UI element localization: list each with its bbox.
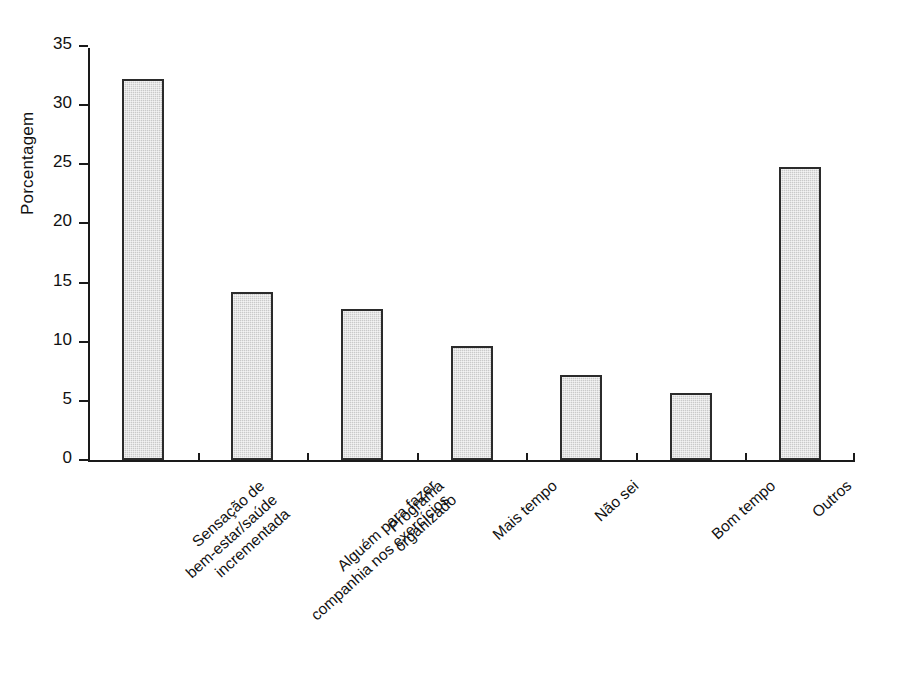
y-tick-label: 30	[53, 93, 72, 113]
y-tick: 20	[79, 222, 88, 224]
x-tick	[853, 453, 855, 462]
y-tick-label: 0	[63, 448, 72, 468]
y-tick: 15	[79, 282, 88, 284]
y-tick: 5	[79, 400, 88, 402]
bar	[451, 346, 493, 460]
x-axis-label-line: Outros	[808, 476, 855, 521]
x-axis-label: Mais tempo	[488, 476, 560, 544]
x-axis-label: Outros	[808, 476, 855, 521]
x-tick	[307, 453, 309, 462]
x-axis-label: Sensação debem-estar/saúdeincrementada	[169, 476, 294, 596]
y-tick-label: 5	[63, 389, 72, 409]
y-axis-line	[88, 48, 90, 462]
y-tick-label: 25	[53, 152, 72, 172]
x-tick	[417, 453, 419, 462]
y-tick-label: 20	[53, 211, 72, 231]
bar	[560, 375, 602, 460]
x-axis-label: Bom tempo	[707, 476, 779, 543]
x-tick	[526, 453, 528, 462]
bar-chart: Porcentagem 05101520253035 Sensação debe…	[0, 0, 898, 683]
bar	[341, 309, 383, 460]
plot-area: 05101520253035	[88, 48, 855, 462]
x-tick	[198, 453, 200, 462]
y-tick: 25	[79, 163, 88, 165]
bar	[670, 393, 712, 460]
x-axis-label-line: Bom tempo	[707, 476, 779, 543]
y-tick: 10	[79, 341, 88, 343]
y-tick: 30	[79, 104, 88, 106]
x-axis-line	[88, 460, 855, 462]
bar	[779, 167, 821, 460]
y-tick-label: 15	[53, 271, 72, 291]
y-tick: 35	[79, 45, 88, 47]
x-axis-label-line: Mais tempo	[488, 476, 560, 544]
x-axis-label-line: Não sei	[591, 476, 643, 525]
y-tick-label: 10	[53, 330, 72, 350]
y-tick: 0	[79, 459, 88, 461]
y-tick-label: 35	[53, 34, 72, 54]
bar	[122, 79, 164, 460]
x-tick	[745, 453, 747, 462]
bar	[231, 292, 273, 460]
y-axis-label: Porcentagem	[18, 55, 38, 215]
x-axis-label: Não sei	[591, 476, 643, 525]
x-tick	[636, 453, 638, 462]
